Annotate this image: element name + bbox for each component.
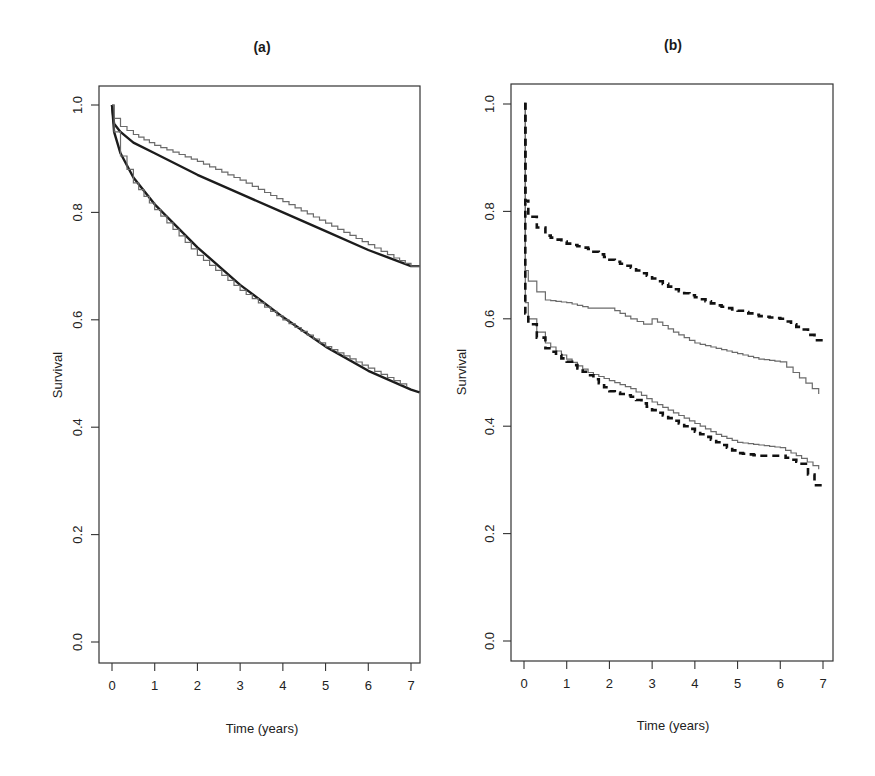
x-tick-label: 5 (734, 676, 741, 691)
survival-curve-thin (112, 105, 420, 266)
x-tick-label: 0 (520, 676, 527, 691)
x-tick-label: 2 (606, 676, 613, 691)
panel-a-y-axis: 0.00.20.40.60.81.0 (70, 96, 99, 651)
x-tick-label: 1 (151, 678, 158, 693)
y-tick-label: 0.8 (70, 203, 85, 221)
panel-a-y-label: Survival (50, 352, 65, 398)
y-tick-label: 0.4 (70, 418, 85, 436)
panel-b-frame (511, 84, 833, 661)
y-tick-label: 0.0 (482, 632, 497, 650)
survival-curve-thick (112, 105, 420, 266)
survival-curve-dashed (524, 104, 823, 485)
y-tick-label: 0.2 (70, 526, 85, 544)
y-tick-label: 1.0 (482, 95, 497, 113)
y-tick-label: 0.0 (70, 633, 85, 651)
survival-curve-thin (524, 104, 819, 394)
x-tick-label: 5 (322, 678, 329, 693)
panel-b-x-label: Time (years) (637, 718, 709, 733)
panel-a-frame (99, 86, 420, 663)
y-tick-label: 1.0 (70, 96, 85, 114)
y-tick-label: 0.4 (482, 417, 497, 435)
x-tick-label: 3 (649, 676, 656, 691)
panel-b-x-axis: 01234567 (520, 661, 826, 691)
y-tick-label: 0.8 (482, 202, 497, 220)
x-tick-label: 7 (819, 676, 826, 691)
x-tick-label: 1 (563, 676, 570, 691)
panel-a-title: (a) (253, 39, 270, 55)
panel-b-series (524, 104, 823, 485)
x-tick-label: 6 (365, 678, 372, 693)
y-tick-label: 0.2 (482, 525, 497, 543)
panel-a-x-axis: 01234567 (108, 663, 414, 693)
panel-a-x-label: Time (years) (226, 721, 298, 736)
x-tick-label: 4 (691, 676, 698, 691)
panel-b-y-axis: 0.00.20.40.60.81.0 (482, 95, 511, 650)
panel-a: (a) 01234567 0.00.20.40.60.81.0 Time (ye… (50, 39, 420, 736)
panel-b: (b) 01234567 0.00.20.40.60.81.0 Time (ye… (454, 37, 833, 733)
survival-chart-figure: (a) 01234567 0.00.20.40.60.81.0 Time (ye… (0, 0, 875, 776)
x-tick-label: 3 (237, 678, 244, 693)
panel-b-y-label: Survival (454, 349, 469, 395)
x-tick-label: 4 (279, 678, 286, 693)
survival-curve-dashed (524, 104, 823, 340)
y-tick-label: 0.6 (482, 310, 497, 328)
survival-curve-thick (112, 105, 420, 392)
y-tick-label: 0.6 (70, 311, 85, 329)
survival-curve-thin (112, 105, 407, 387)
x-tick-label: 7 (407, 678, 414, 693)
x-tick-label: 2 (194, 678, 201, 693)
x-tick-label: 0 (108, 678, 115, 693)
panel-a-series (112, 105, 420, 392)
panel-b-title: (b) (664, 37, 682, 53)
x-tick-label: 6 (777, 676, 784, 691)
